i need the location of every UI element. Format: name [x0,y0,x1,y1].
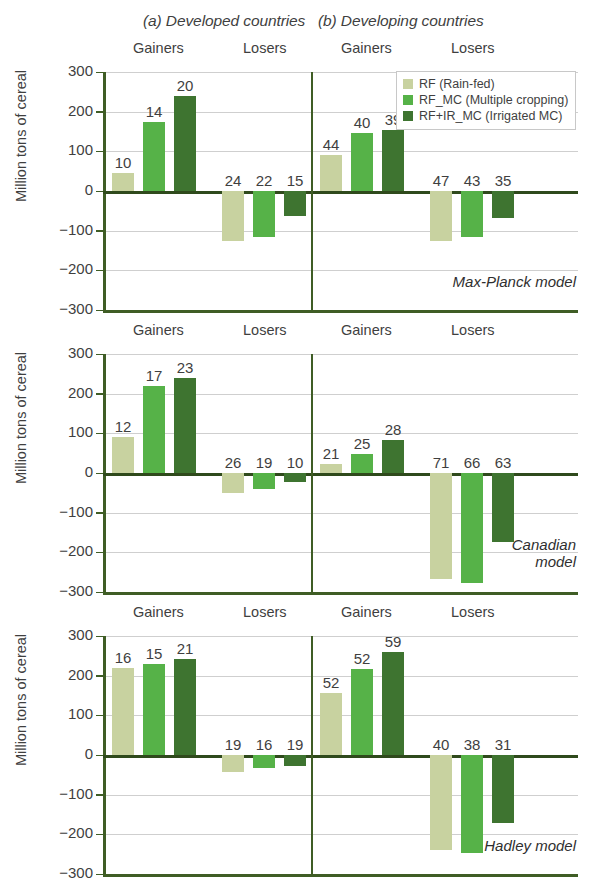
y-axis-tick-label: −100 [59,785,93,802]
bar [382,440,404,473]
y-axis-tick-label: 0 [85,463,93,480]
group-label-gainers: Gainers [133,322,184,338]
bar [430,755,452,850]
bar [143,386,165,473]
bar [492,755,514,823]
y-axis-tick-label: −300 [59,300,93,317]
gridline [103,270,578,271]
y-axis-tick-label: 100 [68,705,93,722]
y-axis-tick-label: −100 [59,221,93,238]
y-axis-tick [96,72,103,74]
bar-value-label: 19 [216,736,250,753]
bar-value-label: 59 [376,633,410,650]
bar-value-label: 19 [247,454,281,471]
bar [430,191,452,241]
model-block-hadley: Million tons of cerealGainersLosersGaine… [0,604,602,874]
bar [253,473,275,489]
y-axis-label: Million tons of cereal [13,605,29,795]
bar-value-label: 35 [486,172,520,189]
bar [382,652,404,755]
bar-value-label: 21 [314,445,348,462]
legend-swatch-icon-rf [403,79,413,89]
y-axis-label: Million tons of cereal [13,41,29,231]
bar [284,473,306,482]
bar [492,191,514,218]
model-caption: Max-Planck model [376,274,576,291]
bar [174,96,196,191]
panel-title-b: (b) Developing countries [318,12,484,30]
y-axis-tick [96,354,103,356]
gridline [103,834,578,835]
y-axis-tick [96,675,103,677]
y-axis-tick [96,191,103,193]
group-label-gainers: Gainers [341,322,392,338]
bar [492,473,514,542]
bar [222,473,244,493]
y-axis-tick-label: 300 [68,344,93,361]
bottom-axis-line [103,874,578,877]
y-axis-tick [96,512,103,514]
bar-value-label: 44 [314,136,348,153]
panel-divider-line [311,636,313,876]
bar-value-label: 24 [216,172,250,189]
legend-item-rf: RF (Rain-fed) [403,76,568,92]
plot-area: 3002001000−100−200−300121723261910212528… [103,354,578,594]
bottom-axis-line [103,592,578,595]
y-axis-tick-label: 0 [85,745,93,762]
bar [253,191,275,237]
panel-divider-line [311,354,313,594]
gridline [103,636,578,637]
group-label-losers: Losers [243,40,287,56]
bar-value-label: 31 [486,736,520,753]
panel-divider-line [311,72,313,312]
bar [222,755,244,772]
y-axis-tick [96,636,103,638]
group-label-losers: Losers [451,604,495,620]
bar-value-label: 47 [424,172,458,189]
bar-value-label: 40 [424,736,458,753]
bar [382,130,404,191]
bar-value-label: 25 [345,435,379,452]
bar-value-label: 52 [345,650,379,667]
y-axis-tick-label: 100 [68,423,93,440]
legend-item-rfmc: RF_MC (Multiple cropping) [403,92,568,108]
legend-item-irmc: RF+IR_MC (Irrigated MC) [403,108,568,124]
y-axis-tick-label: 300 [68,626,93,643]
y-axis-tick-label: −200 [59,542,93,559]
bar-value-label: 23 [168,359,202,376]
panel-titles: (a) Developed countries (b) Developing c… [0,12,602,36]
bar-value-label: 15 [137,645,171,662]
bar [320,155,342,191]
bar-value-label: 28 [376,421,410,438]
y-axis-tick [96,230,103,232]
y-axis-tick-label: 200 [68,666,93,683]
bar [143,122,165,191]
bar-value-label: 40 [345,114,379,131]
y-axis-tick [96,592,103,594]
y-axis-label: Million tons of cereal [13,323,29,513]
bar [284,755,306,766]
y-axis-tick [96,310,103,312]
group-label-gainers: Gainers [133,604,184,620]
y-axis-tick [96,393,103,395]
bar-value-label: 17 [137,367,171,384]
y-axis-tick [96,794,103,796]
group-label-losers: Losers [451,40,495,56]
bar [112,173,134,191]
y-axis-tick-label: −300 [59,582,93,599]
bar [253,755,275,768]
figure-root: (a) Developed countries (b) Developing c… [0,0,602,891]
model-caption: Canadian model [376,537,576,571]
group-label-losers: Losers [451,322,495,338]
y-axis-tick-label: 100 [68,141,93,158]
gridline [103,231,578,232]
y-axis-tick [96,433,103,435]
y-axis-tick [96,270,103,272]
bar-value-label: 20 [168,77,202,94]
bar [320,464,342,473]
model-block-canadian: Million tons of cerealGainersLosersGaine… [0,322,602,592]
group-label-gainers: Gainers [133,40,184,56]
bar [174,659,196,755]
bar-value-label: 26 [216,454,250,471]
y-axis-tick [96,552,103,554]
